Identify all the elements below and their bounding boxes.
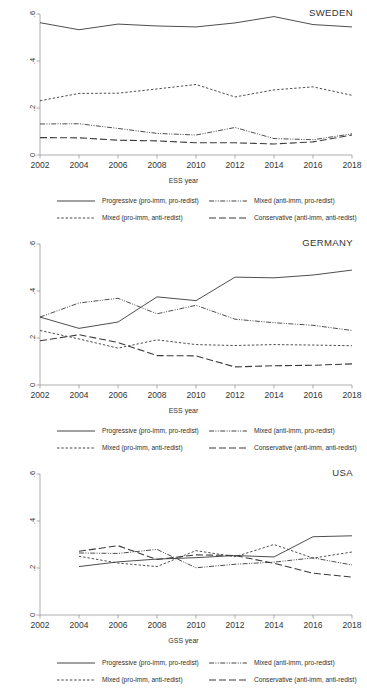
x-tick-label: 2004 (70, 620, 89, 630)
x-tick-label: 2010 (187, 620, 206, 630)
x-tick-label: 2014 (265, 390, 284, 400)
legend-label-progressive: Progressive (pro-imm, pro-redist) (102, 197, 199, 204)
legend-swatch-mixed_pro_anti (57, 444, 95, 452)
legend-row: Mixed (pro-imm, anti-redist)Conservative… (0, 209, 367, 226)
legend-entry-conservative: Conservative (anti-imm, anti-redist) (209, 214, 357, 222)
legend-entry-progressive: Progressive (pro-imm, pro-redist) (57, 197, 209, 205)
x-tick-label: 2002 (31, 160, 50, 170)
series-line (79, 545, 352, 567)
series-line (40, 298, 352, 330)
x-tick-label: 2006 (109, 160, 128, 170)
series-line (40, 124, 352, 140)
legend-swatch-mixed_anti_pro (209, 659, 247, 667)
y-tick-label: .6 (28, 11, 37, 17)
legend-row: Progressive (pro-imm, pro-redist)Mixed (… (0, 654, 367, 671)
x-tick-label: 2008 (148, 390, 167, 400)
x-axis-label: GSS year (0, 637, 367, 644)
x-tick-label: 2014 (265, 620, 284, 630)
x-tick-label: 2018 (343, 390, 362, 400)
x-tick-label: 2018 (343, 620, 362, 630)
x-tick-label: 2006 (109, 390, 128, 400)
chart-legend: Progressive (pro-imm, pro-redist)Mixed (… (0, 192, 367, 226)
x-axis-label: ESS year (0, 177, 367, 184)
legend-label-progressive: Progressive (pro-imm, pro-redist) (102, 659, 199, 666)
x-tick-label: 2002 (31, 620, 50, 630)
x-tick-label: 2006 (109, 620, 128, 630)
y-tick-label: 0 (28, 383, 37, 387)
legend-label-mixed_anti_pro: Mixed (anti-imm, pro-redist) (254, 197, 335, 204)
legend-swatch-conservative (209, 676, 247, 684)
x-tick-label: 2004 (70, 160, 89, 170)
chart-panel-sweden: 0.2.4.6200220042006200820102012201420162… (0, 0, 367, 230)
x-tick-label: 2014 (265, 160, 284, 170)
series-line (79, 549, 352, 567)
x-tick-label: 2010 (187, 390, 206, 400)
legend-entry-progressive: Progressive (pro-imm, pro-redist) (57, 659, 209, 667)
legend-swatch-progressive (57, 197, 95, 205)
legend-label-mixed_anti_pro: Mixed (anti-imm, pro-redist) (254, 659, 335, 666)
series-line (40, 17, 352, 30)
legend-swatch-conservative (209, 214, 247, 222)
x-tick-label: 2008 (148, 160, 167, 170)
legend-label-mixed_pro_anti: Mixed (pro-imm, anti-redist) (102, 676, 183, 683)
y-tick-label: 0 (28, 153, 37, 157)
panel-title: SWEDEN (309, 7, 353, 18)
x-tick-label: 2018 (343, 160, 362, 170)
legend-row: Mixed (pro-imm, anti-redist)Conservative… (0, 439, 367, 456)
x-tick-label: 2016 (304, 160, 323, 170)
legend-label-progressive: Progressive (pro-imm, pro-redist) (102, 427, 199, 434)
panel-title: USA (332, 467, 353, 478)
x-tick-label: 2012 (226, 620, 245, 630)
series-line (40, 335, 352, 367)
chart-legend: Progressive (pro-imm, pro-redist)Mixed (… (0, 422, 367, 456)
series-line (40, 270, 352, 328)
series-line (40, 135, 352, 144)
legend-entry-mixed_pro_anti: Mixed (pro-imm, anti-redist) (57, 214, 209, 222)
y-tick-label: .2 (28, 335, 37, 341)
legend-swatch-mixed_pro_anti (57, 676, 95, 684)
legend-label-mixed_pro_anti: Mixed (pro-imm, anti-redist) (102, 214, 183, 221)
legend-swatch-mixed_pro_anti (57, 214, 95, 222)
legend-swatch-mixed_anti_pro (209, 427, 247, 435)
panel-title: GERMANY (302, 237, 353, 248)
plot-area: 0.2.4.6200220042006200820102012201420162… (0, 230, 367, 428)
x-tick-label: 2002 (31, 390, 50, 400)
legend-label-mixed_anti_pro: Mixed (anti-imm, pro-redist) (254, 427, 335, 434)
x-axis-label: ESS year (0, 407, 367, 414)
series-line (40, 85, 352, 101)
y-tick-label: .4 (28, 518, 37, 524)
legend-entry-mixed_anti_pro: Mixed (anti-imm, pro-redist) (209, 659, 335, 667)
legend-swatch-conservative (209, 444, 247, 452)
y-tick-label: .2 (28, 565, 37, 571)
legend-entry-conservative: Conservative (anti-imm, anti-redist) (209, 676, 357, 684)
legend-entry-mixed_anti_pro: Mixed (anti-imm, pro-redist) (209, 427, 335, 435)
legend-row: Progressive (pro-imm, pro-redist)Mixed (… (0, 422, 367, 439)
legend-entry-progressive: Progressive (pro-imm, pro-redist) (57, 427, 209, 435)
legend-row: Progressive (pro-imm, pro-redist)Mixed (… (0, 192, 367, 209)
x-tick-label: 2016 (304, 620, 323, 630)
x-tick-label: 2008 (148, 620, 167, 630)
trend-chart-figure: 0.2.4.6200220042006200820102012201420162… (0, 0, 367, 692)
legend-swatch-mixed_anti_pro (209, 197, 247, 205)
chart-panel-usa: 0.2.4.6200220042006200820102012201420162… (0, 460, 367, 692)
legend-label-conservative: Conservative (anti-imm, anti-redist) (254, 444, 357, 451)
legend-label-mixed_pro_anti: Mixed (pro-imm, anti-redist) (102, 444, 183, 451)
legend-entry-mixed_pro_anti: Mixed (pro-imm, anti-redist) (57, 676, 209, 684)
legend-label-conservative: Conservative (anti-imm, anti-redist) (254, 676, 357, 683)
chart-panel-germany: 0.2.4.6200220042006200820102012201420162… (0, 230, 367, 460)
y-tick-label: .4 (28, 58, 37, 64)
y-tick-label: .6 (28, 241, 37, 247)
x-tick-label: 2010 (187, 160, 206, 170)
chart-legend: Progressive (pro-imm, pro-redist)Mixed (… (0, 654, 367, 688)
x-tick-label: 2016 (304, 390, 323, 400)
y-tick-label: .6 (28, 471, 37, 477)
y-tick-label: .4 (28, 288, 37, 294)
plot-area: 0.2.4.6200220042006200820102012201420162… (0, 460, 367, 660)
y-tick-label: 0 (28, 613, 37, 617)
legend-swatch-progressive (57, 659, 95, 667)
x-tick-label: 2012 (226, 390, 245, 400)
x-tick-label: 2004 (70, 390, 89, 400)
legend-label-conservative: Conservative (anti-imm, anti-redist) (254, 214, 357, 221)
legend-row: Mixed (pro-imm, anti-redist)Conservative… (0, 671, 367, 688)
series-line (79, 536, 352, 567)
